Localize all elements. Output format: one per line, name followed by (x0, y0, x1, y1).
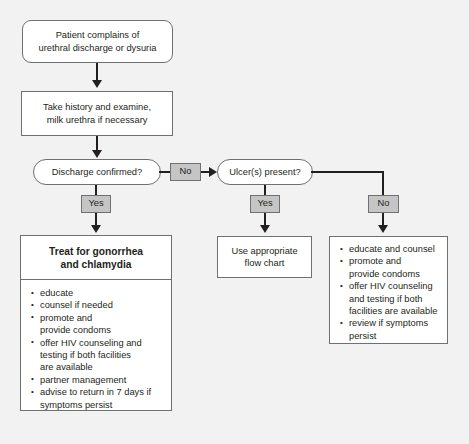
treatment-heading-line-2: and chlamydia (27, 258, 165, 271)
node-ulcers-present-label: Ulcer(s) present? (229, 166, 300, 178)
list-item: offer HIV counseling and testing if both… (340, 280, 443, 317)
label-ulcer-no-text: No (378, 199, 390, 208)
treatment-bullet-3-line-1: promote and (40, 312, 165, 324)
counseling-bullet-1-line-1: educate and counsel (349, 243, 443, 255)
node-discharge-confirmed[interactable]: Discharge confirmed? (33, 159, 161, 185)
connector-ulcer-to-no-elbow (311, 171, 384, 173)
treatment-bullet-6-line-2: symptoms persist (40, 399, 165, 411)
box-use-appropriate-flow-chart[interactable]: Use appropriate flow chart (217, 236, 312, 278)
list-item: review if symptoms persist (340, 317, 443, 342)
arrowhead-ulcer-no-to-counseling (378, 225, 388, 233)
arrowhead-no-to-ulcer (209, 167, 217, 177)
list-item: educate (31, 287, 165, 299)
list-item: promote and provide condoms (340, 255, 443, 280)
list-item: advise to return in 7 days if symptoms p… (31, 386, 165, 411)
treatment-bullet-6-line-1: advise to return in 7 days if (40, 386, 165, 398)
node-take-history[interactable]: Take history and examine, milk urethra i… (21, 91, 173, 136)
treatment-bullet-5-line-1: partner management (40, 374, 165, 386)
treatment-bullet-2-line-1: counsel if needed (40, 299, 165, 311)
node-start-line-1: Patient complains of (56, 29, 140, 41)
node-discharge-confirmed-label: Discharge confirmed? (52, 166, 142, 178)
arrowhead-history-to-discharge (92, 150, 102, 158)
node-start-line-2: urethral discharge or dysuria (39, 42, 157, 54)
label-ulcer-yes: Yes (250, 195, 280, 213)
label-discharge-no-text: No (180, 167, 192, 176)
arrowhead-ulcer-yes-to-flowchart (260, 225, 270, 233)
list-item: educate and counsel (340, 243, 443, 255)
node-ulcers-present[interactable]: Ulcer(s) present? (217, 159, 313, 185)
counseling-bullet-4-line-1: review if symptoms (349, 317, 443, 329)
counseling-bullet-3-line-1: offer HIV counseling (349, 280, 443, 292)
list-item: counsel if needed (31, 299, 165, 311)
counseling-bullet-4-line-2: persist (349, 330, 443, 342)
label-ulcer-yes-text: Yes (257, 199, 272, 208)
label-discharge-no: No (170, 163, 201, 181)
list-item: promote and provide condoms (31, 312, 165, 337)
treatment-bullet-1-line-1: educate (40, 287, 165, 299)
treatment-bullet-4-line-2: testing if both facilities (40, 349, 165, 361)
flowchart-canvas: Patient complains of urethral discharge … (0, 0, 469, 444)
treatment-bullet-4-line-1: offer HIV counseling and (40, 337, 165, 349)
label-ulcer-no: No (368, 195, 399, 213)
list-item: offer HIV counseling and testing if both… (31, 337, 165, 374)
counseling-bullet-3-line-3: facilities are available (349, 305, 443, 317)
box-educate-and-counsel[interactable]: educate and counsel promote and provide … (329, 236, 448, 344)
arrowhead-yes-to-treatment (91, 225, 101, 233)
node-start[interactable]: Patient complains of urethral discharge … (22, 20, 173, 63)
treatment-bullet-3-line-2: provide condoms (40, 324, 165, 336)
counseling-bullet-2-line-2: provide condoms (349, 268, 443, 280)
treatment-bullet-4-line-3: are available (40, 361, 165, 373)
list-item: partner management (31, 374, 165, 386)
counseling-bullet-3-line-2: and testing if both (349, 293, 443, 305)
arrowhead-start-to-history (92, 80, 102, 88)
counseling-bullet-list: educate and counsel promote and provide … (330, 237, 447, 347)
treatment-bullet-list: educate counsel if needed promote and pr… (21, 280, 171, 417)
treatment-heading-line-1: Treat for gonorrhea (27, 245, 165, 258)
node-take-history-line-2: milk urethra if necessary (47, 114, 148, 126)
treatment-heading: Treat for gonorrhea and chlamydia (21, 236, 171, 280)
box-treat-gonorrhea-chlamydia[interactable]: Treat for gonorrhea and chlamydia educat… (20, 235, 172, 411)
flowchart-box-line-2: flow chart (245, 257, 285, 269)
label-discharge-yes-text: Yes (88, 199, 103, 208)
counseling-bullet-2-line-1: promote and (349, 255, 443, 267)
connector-ulcer-no-elbow-down (382, 171, 384, 196)
flowchart-box-line-1: Use appropriate (231, 245, 297, 257)
node-take-history-line-1: Take history and examine, (43, 101, 151, 113)
label-discharge-yes: Yes (81, 195, 111, 213)
